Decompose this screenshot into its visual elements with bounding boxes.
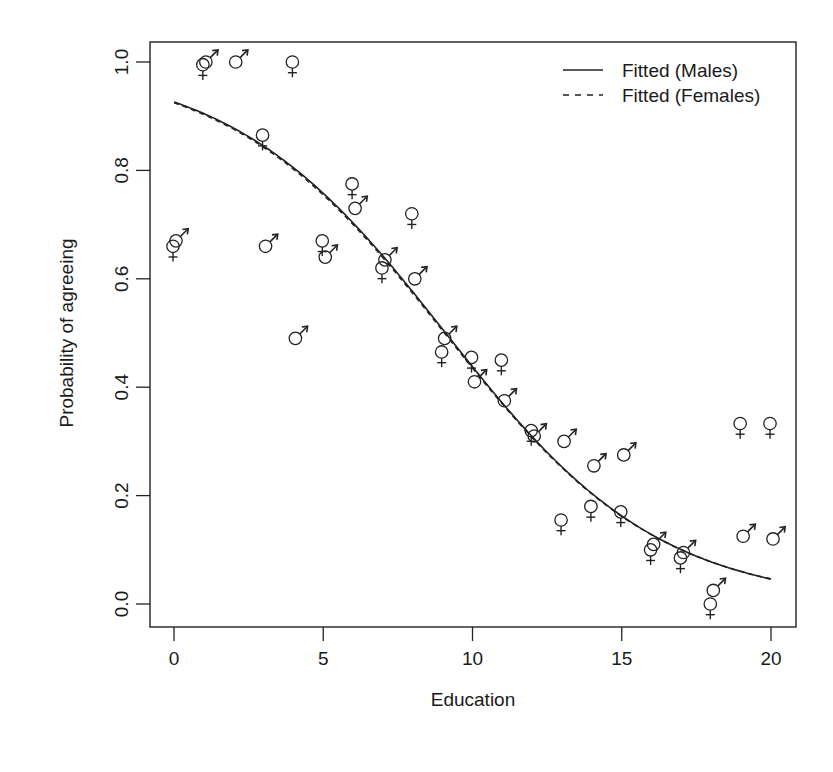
y-tick-label: 0.6 xyxy=(111,266,132,292)
chart-canvas: 05101520 0.00.20.40.60.81.0 Fitted (Male… xyxy=(0,0,833,772)
x-tick-label: 15 xyxy=(611,648,632,669)
legend-label: Fitted (Males) xyxy=(622,60,738,81)
y-tick-label: 1.0 xyxy=(111,49,132,75)
y-tick-label: 0.2 xyxy=(111,482,132,508)
y-tick-label: 0.4 xyxy=(111,374,132,401)
x-tick-label: 0 xyxy=(169,648,180,669)
y-axis-label: Probability of agreeing xyxy=(56,238,77,427)
legend-label: Fitted (Females) xyxy=(622,85,760,106)
x-axis-label: Education xyxy=(431,689,516,710)
x-tick-label: 20 xyxy=(760,648,781,669)
x-tick-label: 5 xyxy=(318,648,329,669)
y-tick-label: 0.8 xyxy=(111,157,132,183)
x-tick-label: 10 xyxy=(462,648,483,669)
y-tick-label: 0.0 xyxy=(111,591,132,617)
